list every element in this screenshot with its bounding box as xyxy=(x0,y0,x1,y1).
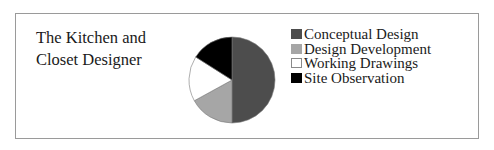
chart-title-line-1: The Kitchen and xyxy=(36,27,146,49)
pie-chart xyxy=(187,35,277,125)
legend: Conceptual Design Design Development Wor… xyxy=(291,27,431,85)
legend-item-working-drawings: Working Drawings xyxy=(291,56,431,71)
legend-label: Working Drawings xyxy=(304,56,418,71)
chart-title: The Kitchen and Closet Designer xyxy=(36,27,146,71)
legend-label: Design Development xyxy=(304,42,431,57)
legend-item-design-development: Design Development xyxy=(291,42,431,57)
pie-slice-conceptual-design xyxy=(232,37,275,123)
legend-swatch xyxy=(291,44,302,54)
legend-swatch xyxy=(291,58,302,68)
legend-label: Site Observation xyxy=(304,71,404,86)
legend-swatch xyxy=(291,73,302,83)
legend-item-conceptual-design: Conceptual Design xyxy=(291,27,431,42)
legend-label: Conceptual Design xyxy=(304,27,419,42)
legend-item-site-observation: Site Observation xyxy=(291,71,431,86)
chart-title-line-2: Closet Designer xyxy=(36,49,146,71)
legend-swatch xyxy=(291,29,302,39)
